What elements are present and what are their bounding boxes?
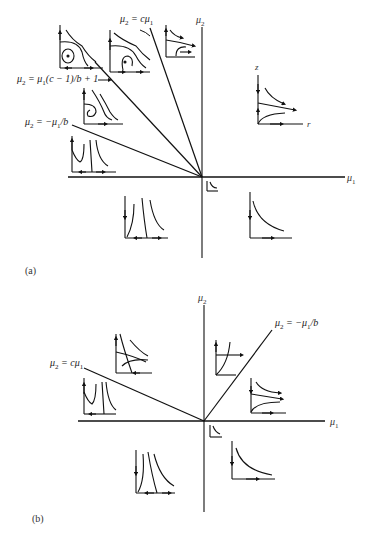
portrait-small-origin-b (210, 425, 222, 437)
portrait-lower-right-a (250, 192, 292, 238)
label-mu2-eq-c-mu1-a: μ2 = cμ1 (120, 14, 153, 27)
panel-a-mu1-axis-label: μ1 (347, 172, 356, 186)
portrait-upper-right-node-b (216, 340, 242, 375)
portrait-spiral-sink (84, 88, 123, 124)
portrait-saddle-crossing (116, 334, 152, 373)
portrait-unstable-spiral (110, 30, 150, 72)
portrait-lower-left-b (136, 450, 175, 493)
label-mu2-eq-mu1-c-minus-1-over-b-plus-1: μ2 = μ1(c − 1)/b + 1 (17, 74, 98, 87)
label-mu2-eq-neg-mu1-over-b-a: μ2 = −μ1/b (25, 117, 68, 130)
panel-a-boundary-lines (72, 28, 202, 177)
portrait-right-saddle-b (251, 378, 286, 413)
panel-a-tag: (a) (25, 265, 36, 276)
portrait-lower-right-b (232, 441, 275, 479)
panel-b-tag: (b) (32, 513, 44, 524)
inset-z-axis-label: z (255, 62, 259, 72)
label-mu2-eq-c-mu1-b: μ2 = cμ1 (50, 358, 83, 371)
portrait-small-origin-a (207, 181, 218, 191)
portrait-center-orbit (60, 25, 103, 68)
portrait-lower-left-a (125, 196, 168, 238)
panel-b-mu1-axis-label: μ1 (330, 416, 339, 430)
inset-r-axis-label: r (307, 119, 311, 129)
label-mu2-eq-neg-mu1-over-b-b: μ2 = −μ1/b (275, 318, 318, 331)
panel-b-boundary-lines (84, 330, 272, 421)
portrait-stable-node-left (72, 136, 116, 172)
portrait-saddle-node-flow (166, 25, 195, 57)
panel-a-mu2-axis-label: μ2 (196, 14, 205, 28)
panel-b-mu2-axis-label: μ2 (198, 292, 207, 306)
portrait-node-z-axis (258, 75, 303, 124)
portrait-node-left-b (84, 378, 116, 414)
